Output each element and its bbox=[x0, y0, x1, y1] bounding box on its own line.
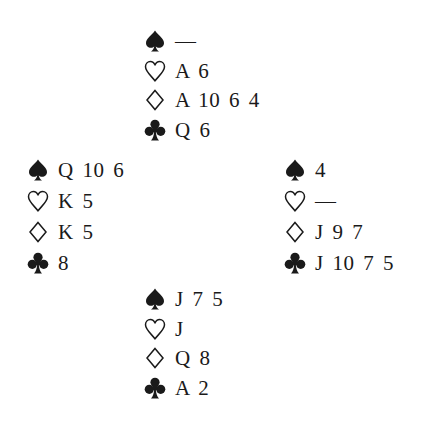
west-hearts-row: K 5 bbox=[26, 186, 93, 216]
diamond-icon bbox=[143, 88, 167, 112]
south-clubs: A 2 bbox=[175, 373, 209, 403]
club-icon bbox=[143, 118, 167, 142]
east-diamonds-row: J 9 7 bbox=[283, 217, 363, 247]
spade-icon bbox=[143, 29, 167, 53]
north-diamonds: A 10 6 4 bbox=[175, 85, 260, 115]
diamond-icon bbox=[283, 220, 307, 244]
heart-icon bbox=[143, 59, 167, 83]
club-icon bbox=[283, 251, 307, 275]
diamond-icon bbox=[143, 346, 167, 370]
east-clubs-row: J 10 7 5 bbox=[283, 248, 394, 278]
west-diamonds: K 5 bbox=[58, 217, 93, 247]
south-hearts: J bbox=[175, 314, 184, 344]
west-diamonds-row: K 5 bbox=[26, 217, 93, 247]
west-clubs-row: 8 bbox=[26, 248, 69, 278]
east-diamonds: J 9 7 bbox=[315, 217, 363, 247]
heart-icon bbox=[143, 317, 167, 341]
north-hearts-row: A 6 bbox=[143, 56, 209, 86]
heart-icon bbox=[283, 189, 307, 213]
club-icon bbox=[143, 376, 167, 400]
east-hearts-row: — bbox=[283, 186, 337, 216]
south-diamonds: Q 8 bbox=[175, 343, 210, 373]
club-icon bbox=[26, 251, 50, 275]
south-spades-row: J 7 5 bbox=[143, 284, 223, 314]
north-diamonds-row: A 10 6 4 bbox=[143, 85, 260, 115]
south-diamonds-row: Q 8 bbox=[143, 343, 210, 373]
spade-icon bbox=[26, 158, 50, 182]
south-clubs-row: A 2 bbox=[143, 373, 209, 403]
east-hearts: — bbox=[315, 186, 337, 216]
east-clubs: J 10 7 5 bbox=[315, 248, 394, 278]
south-hearts-row: J bbox=[143, 314, 184, 344]
east-spades: 4 bbox=[315, 155, 326, 185]
north-clubs-row: Q 6 bbox=[143, 115, 210, 145]
north-hearts: A 6 bbox=[175, 56, 209, 86]
north-spades: — bbox=[175, 26, 197, 56]
west-spades: Q 10 6 bbox=[58, 155, 124, 185]
west-hearts: K 5 bbox=[58, 186, 93, 216]
north-spades-row: — bbox=[143, 26, 197, 56]
spade-icon bbox=[283, 158, 307, 182]
spade-icon bbox=[143, 287, 167, 311]
south-spades: J 7 5 bbox=[175, 284, 223, 314]
east-spades-row: 4 bbox=[283, 155, 326, 185]
diamond-icon bbox=[26, 220, 50, 244]
heart-icon bbox=[26, 189, 50, 213]
north-clubs: Q 6 bbox=[175, 115, 210, 145]
west-clubs: 8 bbox=[58, 248, 69, 278]
west-spades-row: Q 10 6 bbox=[26, 155, 124, 185]
